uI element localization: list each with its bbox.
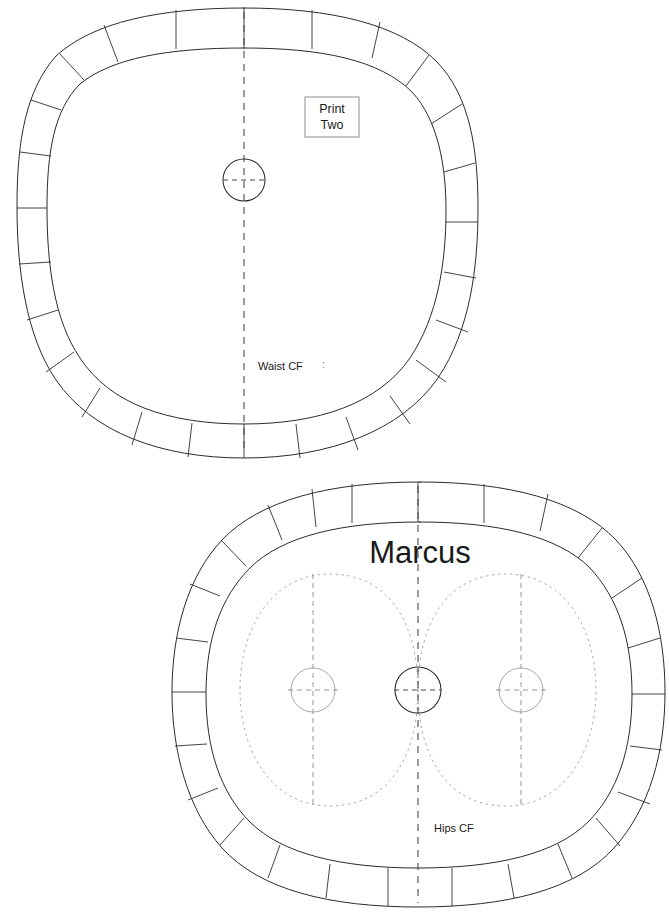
upper-piece-inner-stitch-line (47, 48, 446, 424)
lower-piece-right-circle (496, 574, 546, 806)
upper-piece-outer-cutting-line (17, 8, 478, 458)
waist-cf-tick: : (322, 358, 325, 370)
hips-cf-label: Hips CF (434, 822, 474, 834)
print-two-line1: Print (319, 102, 345, 116)
pattern-drawing-canvas: Print Two Waist CF : (0, 0, 669, 915)
lower-piece-left-circle (288, 574, 338, 806)
upper-piece-notch-lines (17, 8, 478, 458)
lower-piece-inner-stitch-line (206, 522, 632, 868)
lower-pattern-piece: Marcus Hips CF (172, 482, 665, 907)
print-two-box: Print Two (305, 97, 359, 137)
waist-cf-label: Waist CF (258, 360, 303, 372)
marcus-title: Marcus (369, 535, 471, 570)
upper-pattern-piece: Print Two Waist CF : (17, 8, 478, 458)
pattern-sheet: Print Two Waist CF : (0, 0, 669, 915)
print-two-line2: Two (321, 118, 344, 132)
